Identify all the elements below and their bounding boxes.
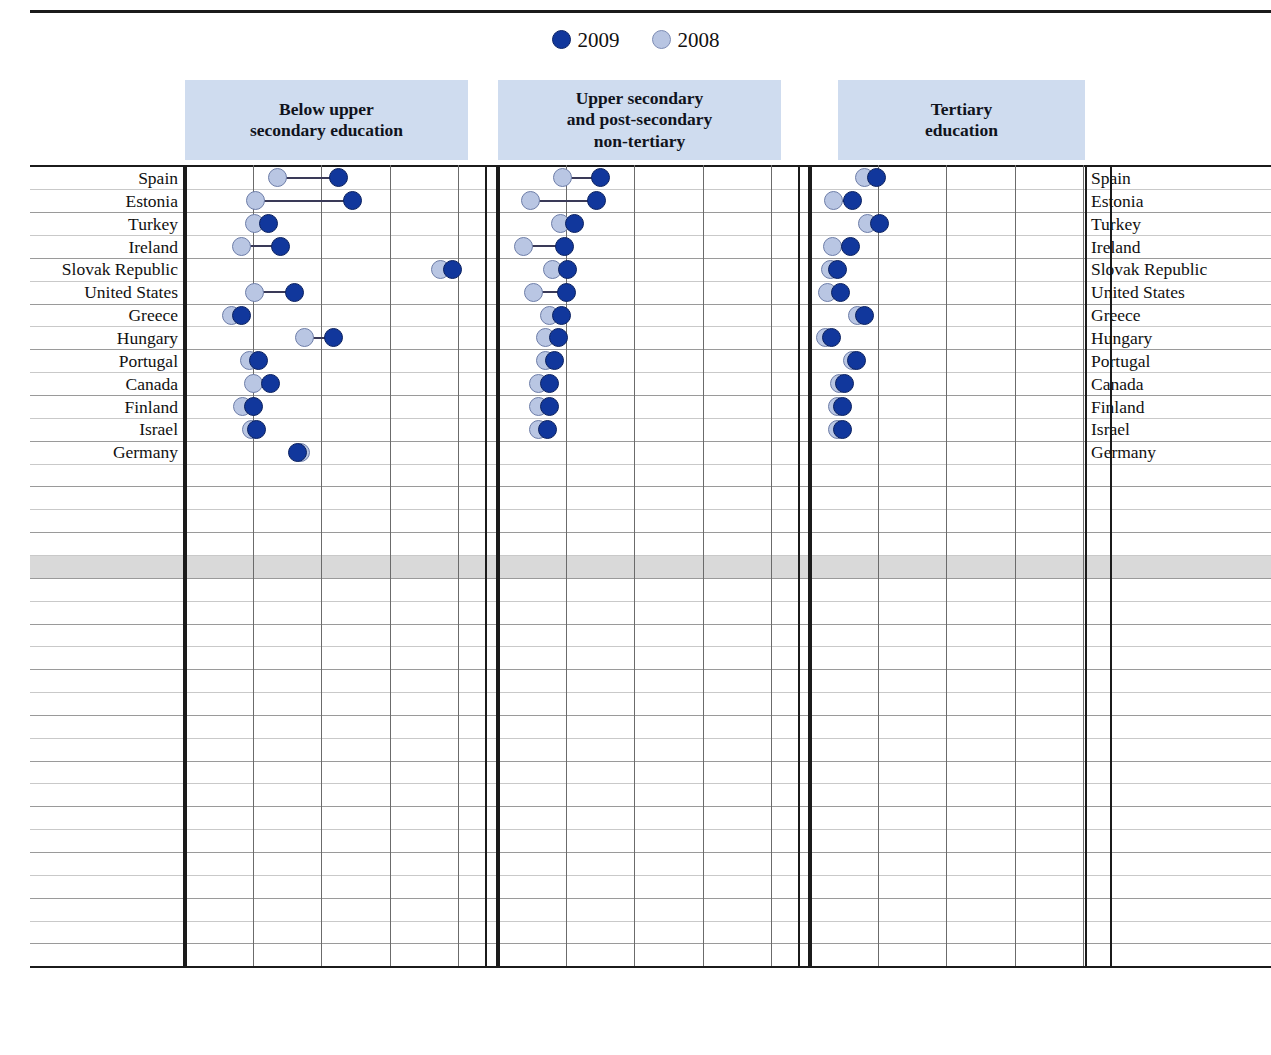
data-point-2009-tertiary[interactable] <box>833 420 852 439</box>
data-point-2009-upper[interactable] <box>540 397 559 416</box>
data-point-2009-tertiary[interactable] <box>855 306 874 325</box>
row-label-right-slovak-republic: Slovak Republic <box>1091 259 1271 280</box>
row-label-left-germany: Germany <box>30 442 178 463</box>
panel-header-tertiary: Tertiary education <box>838 80 1085 160</box>
top-rule <box>30 10 1271 13</box>
data-point-2008-below[interactable] <box>244 374 263 393</box>
panel2-title-line2: education <box>925 120 998 141</box>
data-point-2008-upper[interactable] <box>521 191 540 210</box>
data-point-2009-upper[interactable] <box>545 351 564 370</box>
data-point-2008-tertiary[interactable] <box>824 191 843 210</box>
row-label-right-spain: Spain <box>1091 168 1271 189</box>
panel1-title-line1: Upper secondary <box>567 88 712 109</box>
panel1-title-line2: and post-secondary <box>567 109 712 130</box>
data-point-2009-tertiary[interactable] <box>867 168 886 187</box>
data-point-2009-below[interactable] <box>244 397 263 416</box>
panel-right-border-1 <box>798 165 800 967</box>
gridline-20 <box>634 165 635 967</box>
legend-item-2008: 2008 <box>652 28 720 53</box>
row-label-right-turkey: Turkey <box>1091 214 1271 235</box>
data-point-2008-below[interactable] <box>268 168 287 187</box>
data-point-2009-below[interactable] <box>324 328 343 347</box>
data-point-2009-upper[interactable] <box>549 328 568 347</box>
row-label-left-hungary: Hungary <box>30 328 178 349</box>
row-label-left-ireland: Ireland <box>30 237 178 258</box>
data-point-2009-tertiary[interactable] <box>822 328 841 347</box>
data-point-2009-below[interactable] <box>285 283 304 302</box>
data-point-2009-tertiary[interactable] <box>870 214 889 233</box>
data-point-2009-tertiary[interactable] <box>828 260 847 279</box>
label-divider-2 <box>808 165 810 967</box>
data-point-2009-upper[interactable] <box>555 237 574 256</box>
row-label-left-estonia: Estonia <box>30 191 178 212</box>
data-point-2009-below[interactable] <box>329 168 348 187</box>
data-point-2008-below[interactable] <box>295 328 314 347</box>
gridline-40 <box>458 165 459 967</box>
data-point-2009-upper[interactable] <box>558 260 577 279</box>
data-point-2008-below[interactable] <box>246 191 265 210</box>
table-bottom-rule <box>30 966 1271 968</box>
row-label-right-greece: Greece <box>1091 305 1271 326</box>
data-point-2009-below[interactable] <box>271 237 290 256</box>
legend-item-2009: 2009 <box>552 28 620 53</box>
gridline-10 <box>878 165 879 967</box>
label-divider-3 <box>1085 165 1087 967</box>
gridline-30 <box>703 165 704 967</box>
data-point-2009-below[interactable] <box>249 351 268 370</box>
panel-header-below-upper-secondary: Below upper secondary education <box>185 80 468 160</box>
panel1-title-line3: non-tertiary <box>567 131 712 152</box>
row-label-left-turkey: Turkey <box>30 214 178 235</box>
row-label-left-canada: Canada <box>30 374 178 395</box>
gridline-40 <box>1083 165 1084 967</box>
row-label-right-finland: Finland <box>1091 397 1271 418</box>
data-point-2009-below[interactable] <box>259 214 278 233</box>
data-point-2008-upper[interactable] <box>524 283 543 302</box>
panel0-title-line2: secondary education <box>250 120 403 141</box>
data-point-2008-upper[interactable] <box>553 168 572 187</box>
gridline-30 <box>1015 165 1016 967</box>
data-point-2009-tertiary[interactable] <box>843 191 862 210</box>
panel-right-border-0 <box>485 165 487 967</box>
data-point-2009-below[interactable] <box>343 191 362 210</box>
data-point-2008-below[interactable] <box>232 237 251 256</box>
data-point-2009-tertiary[interactable] <box>831 283 850 302</box>
data-point-2009-tertiary[interactable] <box>835 374 854 393</box>
gridline-0 <box>498 165 500 967</box>
row-label-right-germany: Germany <box>1091 442 1271 463</box>
data-point-2008-below[interactable] <box>245 283 264 302</box>
gridline-30 <box>390 165 391 967</box>
gridline-0 <box>185 165 187 967</box>
row-label-right-canada: Canada <box>1091 374 1271 395</box>
data-point-2009-upper[interactable] <box>587 191 606 210</box>
data-point-2009-below[interactable] <box>443 260 462 279</box>
gridline-0 <box>810 165 812 967</box>
legend-label-2009: 2009 <box>578 28 620 52</box>
data-point-2009-tertiary[interactable] <box>833 397 852 416</box>
row-label-right-hungary: Hungary <box>1091 328 1271 349</box>
data-point-2009-below[interactable] <box>232 306 251 325</box>
legend-label-2008: 2008 <box>678 28 720 52</box>
data-point-2008-tertiary[interactable] <box>823 237 842 256</box>
row-label-right-israel: Israel <box>1091 419 1271 440</box>
data-point-2009-below[interactable] <box>288 443 307 462</box>
row-label-right-ireland: Ireland <box>1091 237 1271 258</box>
dumbbell-connector <box>255 200 352 202</box>
data-point-2009-upper[interactable] <box>591 168 610 187</box>
data-point-2009-upper[interactable] <box>552 306 571 325</box>
row-label-left-slovak-republic: Slovak Republic <box>30 259 178 280</box>
data-point-2009-upper[interactable] <box>538 420 557 439</box>
data-point-2009-tertiary[interactable] <box>841 237 860 256</box>
row-label-right-portugal: Portugal <box>1091 351 1271 372</box>
row-label-right-estonia: Estonia <box>1091 191 1271 212</box>
label-divider-1 <box>496 165 498 967</box>
data-point-2008-upper[interactable] <box>514 237 533 256</box>
data-point-2009-below[interactable] <box>247 420 266 439</box>
row-label-left-united-states: United States <box>30 282 178 303</box>
data-point-2009-upper[interactable] <box>565 214 584 233</box>
data-point-2009-upper[interactable] <box>557 283 576 302</box>
data-point-2009-tertiary[interactable] <box>847 351 866 370</box>
legend: 2009 2008 <box>0 28 1271 53</box>
data-point-2009-below[interactable] <box>261 374 280 393</box>
row-label-left-israel: Israel <box>30 419 178 440</box>
data-point-2009-upper[interactable] <box>540 374 559 393</box>
